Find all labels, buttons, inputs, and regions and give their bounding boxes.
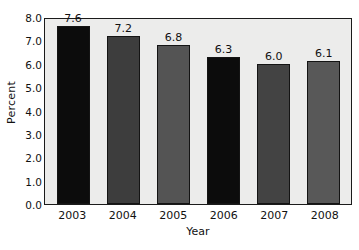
x-axis-tick: 2004 bbox=[106, 208, 139, 224]
bar-slot: 7.6 bbox=[57, 19, 90, 204]
plot-area: 7.67.26.86.36.06.1 bbox=[44, 18, 352, 205]
x-axis-tick: 2006 bbox=[207, 208, 240, 224]
bar bbox=[257, 64, 290, 204]
bar bbox=[107, 36, 140, 204]
y-axis-tick: 2.0 bbox=[18, 153, 42, 164]
y-axis-tick: 8.0 bbox=[18, 13, 42, 24]
y-axis-title-label: Percent bbox=[5, 81, 18, 124]
bar bbox=[57, 26, 90, 204]
bars-layer: 7.67.26.86.36.06.1 bbox=[45, 19, 351, 204]
y-axis-tick: 7.0 bbox=[18, 36, 42, 47]
y-axis-tick: 3.0 bbox=[18, 130, 42, 141]
y-axis-tick-labels: 8.07.06.05.04.03.02.01.00.0 bbox=[18, 18, 42, 205]
x-axis-tick: 2003 bbox=[56, 208, 89, 224]
bar-value-label: 6.3 bbox=[215, 44, 233, 55]
bar-value-label: 6.1 bbox=[315, 48, 333, 59]
bar-slot: 6.8 bbox=[157, 19, 190, 204]
x-axis-tick: 2005 bbox=[157, 208, 190, 224]
x-axis-tick: 2007 bbox=[258, 208, 291, 224]
bar-slot: 6.1 bbox=[307, 19, 340, 204]
bar bbox=[157, 45, 190, 204]
y-axis-tick: 4.0 bbox=[18, 106, 42, 117]
bar bbox=[307, 61, 340, 204]
bar-slot: 6.0 bbox=[257, 19, 290, 204]
bar-value-label: 6.8 bbox=[165, 32, 183, 43]
bar-value-label: 6.0 bbox=[265, 51, 283, 62]
x-axis-tick: 2008 bbox=[308, 208, 341, 224]
x-axis-title: Year bbox=[44, 225, 352, 238]
bar-value-label: 7.6 bbox=[64, 13, 82, 24]
y-axis-tick: 6.0 bbox=[18, 60, 42, 71]
y-axis-tick: 1.0 bbox=[18, 176, 42, 187]
y-axis-tick: 5.0 bbox=[18, 83, 42, 94]
bar-slot: 7.2 bbox=[107, 19, 140, 204]
bar bbox=[207, 57, 240, 204]
bar-chart-figure: Percent 8.07.06.05.04.03.02.01.00.0 7.67… bbox=[0, 0, 359, 250]
bar-slot: 6.3 bbox=[207, 19, 240, 204]
bar-value-label: 7.2 bbox=[114, 23, 132, 34]
y-axis-tick: 0.0 bbox=[18, 200, 42, 211]
x-axis-tick-labels: 200320042005200620072008 bbox=[44, 208, 352, 224]
